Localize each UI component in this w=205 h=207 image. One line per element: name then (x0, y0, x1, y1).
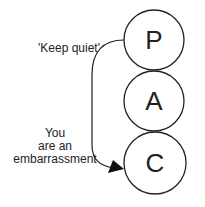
arrowhead-icon (108, 160, 124, 173)
embarrassment-line-3: embarrassment (0, 153, 110, 166)
embarrassment-label: You are an embarrassment (0, 127, 110, 166)
node-adult-label: A (134, 86, 174, 117)
keep-quiet-label: 'Keep quiet' (38, 42, 100, 55)
node-parent-label: P (134, 25, 174, 56)
node-child-label: C (135, 148, 175, 179)
